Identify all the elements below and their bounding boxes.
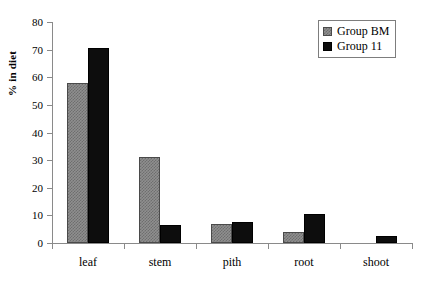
bar [304, 214, 325, 243]
bar [211, 224, 232, 243]
y-axis-tick-label: 10 [0, 210, 43, 221]
x-axis-tick [268, 243, 269, 249]
y-axis-tick-label: 70 [0, 45, 43, 56]
bar [139, 157, 160, 243]
x-axis-tick-label: root [294, 255, 313, 269]
legend-item-group-11: Group 11 [323, 39, 389, 54]
x-axis-tick [52, 243, 53, 249]
bar [67, 83, 88, 243]
legend-label-group-bm: Group BM [337, 25, 389, 38]
bar [160, 225, 181, 243]
bar [376, 236, 397, 243]
y-axis-tick-label: 60 [0, 72, 43, 83]
x-axis-tick [124, 243, 125, 249]
bar [283, 232, 304, 243]
x-axis-tick-label: pith [223, 255, 242, 269]
bar-chart: % in diet 01020304050607080 leafstempith… [0, 0, 428, 286]
x-axis-tick-label: stem [149, 255, 172, 269]
x-axis-tick [196, 243, 197, 249]
legend-item-group-bm: Group BM [323, 24, 389, 39]
y-axis-tick-label: 30 [0, 155, 43, 166]
bar [88, 48, 109, 243]
x-axis-tick-label: leaf [79, 255, 97, 269]
legend-swatch-group-11 [323, 42, 332, 51]
y-axis-tick-label: 40 [0, 128, 43, 139]
x-axis-tick [340, 243, 341, 249]
x-axis-line [52, 243, 413, 244]
y-axis-tick-label: 80 [0, 17, 43, 28]
y-axis-tick-label: 0 [0, 238, 43, 249]
legend-label-group-11: Group 11 [337, 40, 382, 53]
bar [232, 222, 253, 243]
x-axis-tick-label: shoot [363, 255, 389, 269]
legend-swatch-group-bm [323, 27, 332, 36]
x-axis-tick [412, 243, 413, 249]
y-axis-tick-label: 50 [0, 100, 43, 111]
y-axis-tick-label: 20 [0, 183, 43, 194]
legend: Group BM Group 11 [318, 20, 396, 58]
